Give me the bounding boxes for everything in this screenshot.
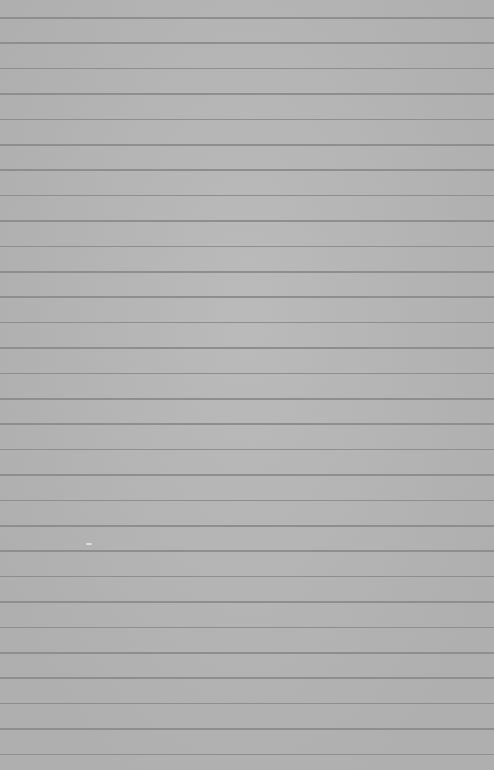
ruled-line bbox=[0, 246, 494, 248]
ruled-line bbox=[0, 474, 494, 476]
ruled-line bbox=[0, 677, 494, 679]
ruled-line bbox=[0, 195, 494, 197]
ruled-line bbox=[0, 68, 494, 70]
ruled-line bbox=[0, 627, 494, 629]
ruled-line bbox=[0, 576, 494, 578]
ruled-line bbox=[0, 550, 494, 552]
ruled-line bbox=[0, 754, 494, 756]
ruled-line bbox=[0, 119, 494, 121]
light-speck bbox=[86, 543, 92, 545]
ruled-line bbox=[0, 17, 494, 19]
ruled-line bbox=[0, 169, 494, 171]
ruled-line bbox=[0, 449, 494, 451]
ruled-line bbox=[0, 220, 494, 222]
ruled-line bbox=[0, 271, 494, 273]
ruled-line bbox=[0, 652, 494, 654]
ruled-line bbox=[0, 373, 494, 375]
ruled-line bbox=[0, 322, 494, 324]
ruled-line bbox=[0, 144, 494, 146]
ruled-line bbox=[0, 347, 494, 349]
ruled-line bbox=[0, 500, 494, 502]
ruled-line bbox=[0, 42, 494, 44]
ruled-line bbox=[0, 296, 494, 298]
ruled-line bbox=[0, 728, 494, 730]
lined-paper bbox=[0, 0, 494, 770]
ruled-line bbox=[0, 93, 494, 95]
ruled-line bbox=[0, 703, 494, 705]
ruled-line bbox=[0, 423, 494, 425]
ruled-line bbox=[0, 525, 494, 527]
ruled-line bbox=[0, 601, 494, 603]
ruled-line bbox=[0, 398, 494, 400]
